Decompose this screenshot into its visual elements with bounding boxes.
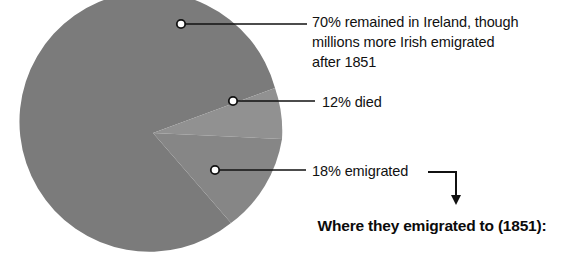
elbow-arrow-icon [428, 172, 456, 196]
pie-chart-figure: 70% remained in Ireland, though millions… [0, 0, 563, 269]
callout-label-emigrated: 18% emigrated [312, 161, 408, 181]
chart-caption: Where they emigrated to (1851): [303, 215, 561, 236]
callout-dot-emigrated [211, 166, 219, 174]
callout-dot-remained [177, 20, 185, 28]
callout-dot-died [229, 97, 237, 105]
callout-label-died: 12% died [322, 92, 382, 112]
arrowhead-icon [451, 195, 461, 205]
callout-label-remained: 70% remained in Ireland, though millions… [312, 12, 562, 72]
